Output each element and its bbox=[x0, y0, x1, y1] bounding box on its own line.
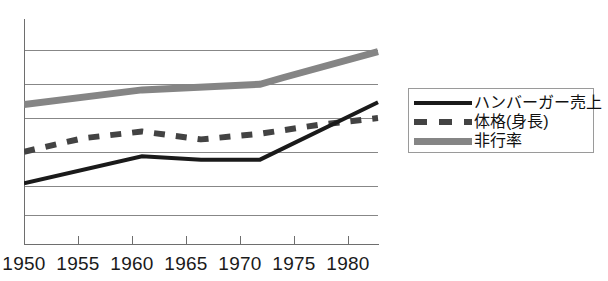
series-line-delinquency bbox=[24, 52, 378, 105]
legend-label-hamburger: ハンバーガー売上 bbox=[472, 94, 602, 112]
legend-entry-physique: 体格(身長) bbox=[414, 112, 593, 131]
x-tick-label-1960: 1960 bbox=[105, 252, 159, 276]
line-chart-figure: 1950 1955 1960 1965 1970 1975 1980 ハンバーガ… bbox=[0, 0, 608, 281]
solid-line-swatch-icon bbox=[414, 96, 472, 110]
legend-entry-hamburger: ハンバーガー売上 bbox=[414, 93, 593, 112]
x-axis-labels: 1950 1955 1960 1965 1970 1975 1980 bbox=[0, 252, 420, 278]
x-tick-label-1970: 1970 bbox=[213, 252, 267, 276]
legend-label-delinquency: 非行率 bbox=[472, 132, 522, 150]
x-tick-label-1980: 1980 bbox=[321, 252, 375, 276]
dashed-line-swatch-icon bbox=[414, 115, 472, 129]
x-tick-label-1955: 1955 bbox=[51, 252, 105, 276]
series-line-hamburger bbox=[24, 102, 378, 183]
legend-label-physique: 体格(身長) bbox=[472, 113, 549, 131]
thick-gray-line-swatch-icon bbox=[414, 134, 472, 148]
x-tick-label-1965: 1965 bbox=[159, 252, 213, 276]
legend-entry-delinquency: 非行率 bbox=[414, 131, 593, 150]
x-tick-label-1975: 1975 bbox=[267, 252, 321, 276]
chart-legend: ハンバーガー売上 体格(身長) 非行率 bbox=[408, 88, 594, 153]
series-line-physique bbox=[24, 118, 378, 152]
x-tick-label-1950: 1950 bbox=[0, 252, 51, 276]
